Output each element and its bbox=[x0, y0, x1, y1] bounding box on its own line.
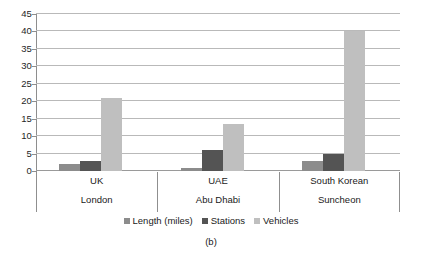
bar bbox=[181, 168, 202, 171]
bars-layer bbox=[36, 14, 400, 171]
bar bbox=[202, 150, 223, 171]
category-label-secondary: Abu Dhabi bbox=[196, 194, 240, 205]
bar bbox=[59, 164, 80, 171]
legend-item: Length (miles) bbox=[124, 216, 193, 226]
category-label-primary: UAE bbox=[208, 175, 228, 186]
legend-label: Length (miles) bbox=[133, 216, 193, 226]
y-axis-labels: 051015202530354045 bbox=[0, 0, 32, 171]
bar bbox=[80, 161, 101, 171]
category-label-secondary: Suncheon bbox=[318, 194, 361, 205]
plot-area bbox=[36, 14, 400, 171]
bar bbox=[101, 98, 122, 171]
legend-label: Stations bbox=[211, 216, 245, 226]
category-label-primary: South Korean bbox=[310, 175, 368, 186]
bar-chart-figure: 051015202530354045 UKLondonUAEAbu DhabiS… bbox=[0, 0, 422, 256]
legend-item: Vehicles bbox=[254, 216, 298, 226]
category-label-primary: UK bbox=[90, 175, 103, 186]
category-label-secondary: London bbox=[81, 194, 113, 205]
bar bbox=[302, 161, 323, 171]
legend-label: Vehicles bbox=[263, 216, 298, 226]
category-group: UAEAbu Dhabi bbox=[157, 172, 278, 212]
bar bbox=[223, 124, 244, 171]
category-axis: UKLondonUAEAbu DhabiSouth KoreanSuncheon bbox=[36, 172, 400, 212]
figure-caption: (b) bbox=[0, 236, 422, 247]
legend-swatch-icon bbox=[124, 218, 130, 224]
legend-swatch-icon bbox=[254, 218, 260, 224]
bar bbox=[344, 31, 365, 171]
legend-swatch-icon bbox=[202, 218, 208, 224]
category-group: South KoreanSuncheon bbox=[279, 172, 400, 212]
legend-item: Stations bbox=[202, 216, 245, 226]
bar bbox=[323, 154, 344, 171]
legend: Length (miles)StationsVehicles bbox=[0, 216, 422, 226]
category-group: UKLondon bbox=[36, 172, 157, 212]
